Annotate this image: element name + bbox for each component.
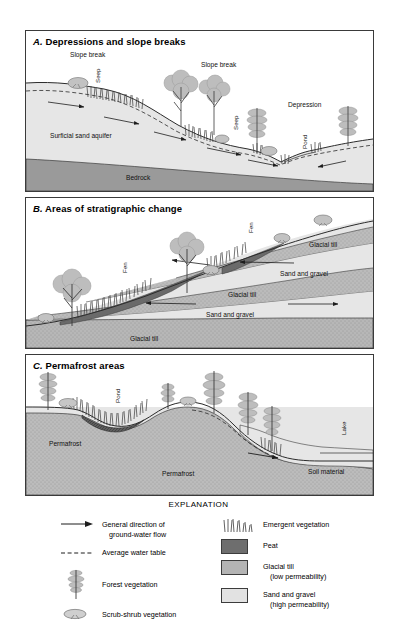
till-swatch-icon [221, 560, 255, 576]
panel-b-title: B. Areas of stratigraphic change [33, 203, 182, 214]
legend-label-peat: Peat [263, 539, 371, 551]
label-fen-1: Fen [121, 262, 128, 273]
label-sand-and-gravel-upper: Sand and gravel [280, 270, 328, 277]
label-slope-break-2: Slope break [201, 61, 236, 68]
label-permafrost-left: Permafrost [49, 440, 81, 447]
scrub-shrub-icon [60, 608, 94, 624]
flow-arrow-icon [60, 518, 94, 534]
label-permafrost-center: Permafrost [162, 470, 194, 477]
legend-right-column: Emergent vegetation Peat Glacial till (l… [221, 518, 371, 616]
legend-line2: ground-water flow [109, 530, 230, 540]
panel-b-title-text: Areas of stratigraphic change [45, 203, 182, 214]
panel-c-title: C. Permafrost areas [33, 360, 125, 371]
label-soil-material: Soil material [308, 468, 344, 475]
legend-label-emergent-vegetation: Emergent vegetation [263, 518, 371, 530]
sand-swatch-icon [221, 588, 255, 604]
panel-b-stratigraphic-change: B. Areas of stratigraphic change [25, 197, 374, 349]
label-glacial-till-middle: Glacial till [228, 291, 256, 298]
legend-item-sand-and-gravel: Sand and gravel (high permeability) [221, 588, 371, 609]
legend-item-peat: Peat [221, 539, 371, 553]
panel-c-permafrost-areas: C. Permafrost areas [25, 354, 374, 496]
panel-c-letter: C. [33, 360, 43, 371]
legend-label-ground-water-flow: General direction of ground-water flow [102, 518, 230, 539]
panel-a-title-text: Depressions and slope breaks [45, 36, 185, 47]
panel-b-letter: B. [33, 203, 43, 214]
explanation-legend: EXPLANATION General direction of ground-… [25, 500, 372, 630]
peat-swatch-icon [221, 539, 255, 555]
legend-label-sand-and-gravel: Sand and gravel (high permeability) [263, 588, 371, 609]
legend-item-scrub-shrub-vegetation: Scrub-shrub vegetation [60, 608, 230, 622]
legend-left-column: General direction of ground-water flow A… [60, 518, 230, 629]
dashed-line-icon [60, 546, 94, 562]
legend-line2: (high permeability) [270, 600, 371, 610]
label-pond: Pond [301, 135, 308, 149]
legend-label-scrub-shrub-vegetation: Scrub-shrub vegetation [102, 608, 230, 620]
label-lake: Lake [340, 422, 347, 435]
emergent-grass-icon [221, 518, 255, 534]
label-glacial-till-lower: Glacial till [130, 335, 158, 342]
label-surficial-sand-aquifer: Surficial sand aquifer [50, 132, 112, 139]
label-glacial-till-upper: Glacial till [309, 241, 337, 248]
legend-item-ground-water-flow: General direction of ground-water flow [60, 518, 230, 539]
explanation-heading: EXPLANATION [25, 500, 372, 509]
legend-line2: (low permeability) [270, 572, 371, 582]
label-pond: Pond [114, 389, 121, 403]
legend-line1: Glacial till [263, 562, 294, 571]
panel-a-title: A. Depressions and slope breaks [33, 36, 186, 47]
label-bedrock: Bedrock [126, 174, 150, 181]
legend-label-glacial-till: Glacial till (low permeability) [263, 560, 371, 581]
legend-label-average-water-table: Average water table [102, 546, 230, 558]
legend-line1: General direction of [102, 520, 165, 529]
legend-item-emergent-vegetation: Emergent vegetation [221, 518, 371, 532]
label-slope-break-1: Slope break [70, 51, 105, 58]
legend-item-glacial-till: Glacial till (low permeability) [221, 560, 371, 581]
forest-tree-icon [60, 567, 94, 601]
label-fen-2: Fen [247, 222, 254, 233]
label-seep-2: Seep [232, 116, 239, 130]
label-depression: Depression [288, 101, 321, 108]
legend-line1: Sand and gravel [263, 590, 315, 599]
label-sand-and-gravel-lower: Sand and gravel [206, 311, 254, 318]
panel-c-title-text: Permafrost areas [45, 360, 124, 371]
legend-item-forest-vegetation: Forest vegetation [60, 567, 230, 601]
legend-label-forest-vegetation: Forest vegetation [102, 567, 230, 590]
panel-a-letter: A. [33, 36, 43, 47]
panel-a-depressions-slope-breaks: A. Depressions and slope breaks [25, 30, 374, 192]
legend-item-average-water-table: Average water table [60, 546, 230, 560]
label-seep-1: Seep [94, 69, 101, 83]
